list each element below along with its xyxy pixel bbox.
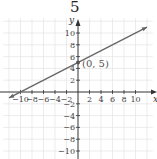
x-axis-label: x <box>153 94 157 104</box>
data-point <box>76 61 80 65</box>
y-tick-label: 8 <box>70 41 75 50</box>
y-tick-label: −2 <box>63 100 75 109</box>
graph-figure: 5 −10−8−6−4−2246810−10−8−6−4−2246810xy(0… <box>0 0 157 159</box>
x-tick-label: 2 <box>87 95 92 104</box>
x-tick-label: 8 <box>121 95 126 104</box>
x-tick-label: −6 <box>38 95 50 104</box>
x-tick-label: −4 <box>49 95 61 104</box>
y-tick-label: −6 <box>63 123 75 132</box>
point-label: (0, 5) <box>82 58 109 69</box>
y-axis-arrow-icon <box>76 19 81 26</box>
y-tick-label: −8 <box>63 135 75 144</box>
x-tick-label: 6 <box>110 95 115 104</box>
y-tick-label: −10 <box>58 147 75 156</box>
coordinate-plane: −10−8−6−4−2246810−10−8−6−4−2246810xy(0, … <box>0 0 157 159</box>
y-tick-label: 6 <box>70 53 75 62</box>
y-tick-label: 10 <box>65 29 75 38</box>
x-tick-label: 10 <box>130 95 140 104</box>
x-tick-label: −8 <box>26 95 38 104</box>
y-tick-label: −4 <box>63 112 75 121</box>
y-tick-label: 2 <box>70 76 75 85</box>
x-tick-label: 4 <box>98 95 103 104</box>
y-axis-label: y <box>68 15 75 25</box>
